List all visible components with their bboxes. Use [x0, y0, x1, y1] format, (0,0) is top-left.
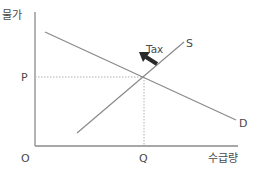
x-axis-label: 수급량 [208, 152, 238, 165]
supply-demand-chart: 물가 수급량 O P Q D S Tax [0, 0, 261, 175]
price-label: P [21, 71, 28, 84]
quantity-label: Q [139, 152, 148, 165]
demand-curve [45, 32, 236, 120]
origin-label: O [21, 152, 30, 165]
demand-label: D [239, 117, 247, 130]
tax-label: Tax [145, 43, 163, 55]
y-axis-label: 물가 [2, 9, 22, 22]
supply-curve [77, 42, 184, 133]
supply-label: S [186, 37, 193, 50]
